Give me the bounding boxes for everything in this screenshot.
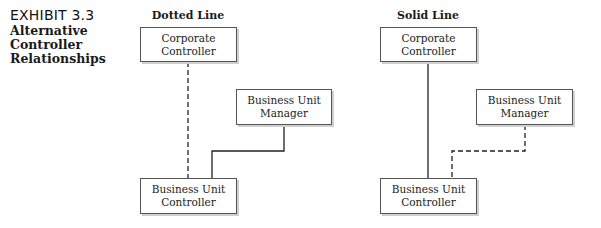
- left-business-unit-manager-box: Business Unit Manager: [236, 89, 332, 125]
- box-label-line: Controller: [401, 45, 456, 58]
- left-business-unit-controller-box: Business Unit Controller: [140, 178, 237, 214]
- right-business-unit-manager-box: Business Unit Manager: [476, 89, 573, 125]
- right-bu-manager-to-bu-controller-link: [452, 125, 525, 178]
- left-corporate-controller-box: Corporate Controller: [140, 27, 237, 62]
- box-label-line: Business Unit: [152, 183, 226, 196]
- box-label-line: Business Unit: [488, 94, 562, 107]
- right-corporate-controller-box: Corporate Controller: [380, 27, 477, 62]
- box-label-line: Business Unit: [247, 94, 321, 107]
- box-label-line: Manager: [488, 107, 562, 120]
- panel-title-dotted-line: Dotted Line: [152, 9, 224, 22]
- box-label-line: Controller: [161, 45, 216, 58]
- panel-title-solid-line: Solid Line: [397, 9, 459, 22]
- box-label-line: Manager: [247, 107, 321, 120]
- box-label-line: Controller: [152, 196, 226, 209]
- right-business-unit-controller-box: Business Unit Controller: [380, 178, 477, 214]
- box-label-line: Corporate: [161, 32, 216, 45]
- box-label-line: Controller: [392, 196, 466, 209]
- left-bu-manager-to-bu-controller-link: [212, 125, 284, 178]
- box-label-line: Business Unit: [392, 183, 466, 196]
- box-label-line: Corporate: [401, 32, 456, 45]
